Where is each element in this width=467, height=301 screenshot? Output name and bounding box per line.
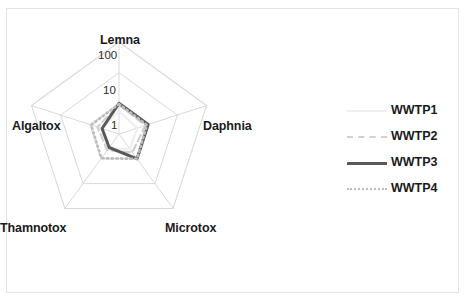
legend-item-wwtp4[interactable]: WWTP4 [347, 175, 460, 201]
legend-item-wwtp1[interactable]: WWTP1 [347, 97, 460, 123]
spoke-daphnia [119, 106, 207, 134]
axis-label-daphnia: Daphnia [203, 119, 252, 133]
radar-series-group [91, 103, 148, 158]
chart-frame: Lemna Daphnia Microtox Thamnotox Algalto… [6, 8, 459, 293]
legend-swatch-wwtp2 [347, 129, 387, 143]
legend-item-wwtp3[interactable]: WWTP3 [347, 149, 460, 175]
radial-tick-100: 100 [98, 49, 117, 61]
legend-label: WWTP3 [391, 155, 438, 169]
radar-plot-svg [7, 9, 347, 294]
axis-label-algaltox: Algaltox [12, 119, 61, 133]
radial-tick-1: 1 [111, 119, 117, 131]
legend-swatch-wwtp3 [347, 155, 387, 169]
legend-swatch-wwtp1 [347, 103, 387, 117]
radial-tick-10: 10 [103, 84, 116, 96]
spoke-thamnotox [65, 134, 119, 208]
chart-legend: WWTP1WWTP2WWTP3WWTP4 [347, 97, 460, 201]
radar-chart: Lemna Daphnia Microtox Thamnotox Algalto… [7, 9, 347, 294]
legend-item-wwtp2[interactable]: WWTP2 [347, 123, 460, 149]
legend-label: WWTP1 [391, 103, 438, 117]
legend-label: WWTP2 [391, 129, 438, 143]
axis-label-lemna: Lemna [100, 33, 140, 47]
legend-label: WWTP4 [391, 181, 438, 195]
axis-label-microtox: Microtox [165, 221, 216, 235]
axis-label-thamnotox: Thamnotox [0, 221, 66, 235]
legend-swatch-wwtp4 [347, 181, 387, 195]
spoke-microtox [119, 134, 173, 208]
